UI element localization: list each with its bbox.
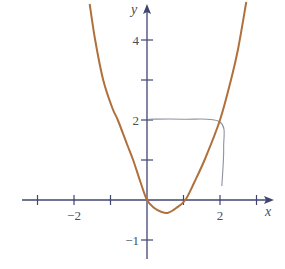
series: [90, 2, 247, 213]
x-axis-label: x: [264, 204, 272, 219]
y-tick-label: 4: [133, 33, 140, 48]
y-axis-label: y: [129, 2, 138, 17]
annotations: [149, 119, 224, 186]
x-tick-label: −2: [67, 208, 81, 223]
tick-labels: −2242−1: [67, 33, 223, 248]
guide-line: [149, 119, 224, 186]
chart: x y −2242−1: [0, 0, 285, 269]
y-tick-label: 2: [133, 113, 140, 128]
curve-line: [90, 2, 247, 213]
y-tick-label: −1: [125, 233, 139, 248]
x-tick-label: 2: [217, 208, 224, 223]
